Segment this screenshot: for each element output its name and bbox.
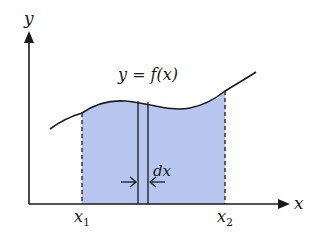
x1-label: x1 — [74, 207, 90, 229]
shaded-area — [82, 91, 225, 204]
y-axis-label: y — [23, 8, 34, 28]
x-axis-label: x — [294, 193, 304, 213]
dx-label: dx — [153, 162, 172, 180]
x-axis-arrow-icon — [278, 199, 290, 209]
integral-diagram: y x y = f(x) dx x1 x2 — [0, 0, 320, 242]
x2-label: x2 — [217, 207, 233, 229]
y-axis-arrow-icon — [24, 31, 34, 43]
function-label: y = f(x) — [117, 65, 178, 84]
